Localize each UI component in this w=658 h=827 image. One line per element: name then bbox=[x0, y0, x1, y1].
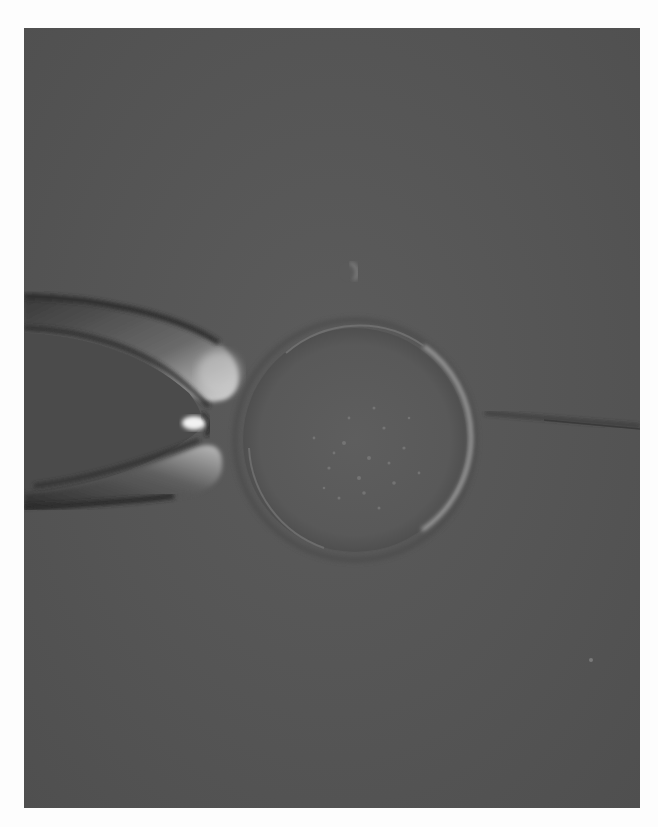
injection-needle bbox=[485, 413, 640, 429]
oocyte bbox=[243, 326, 471, 552]
microscopy-photo bbox=[24, 28, 640, 808]
debris-speck bbox=[589, 658, 593, 662]
holding-pipette bbox=[24, 296, 241, 508]
pipette-tip-highlight bbox=[182, 416, 206, 430]
microscopy-scene bbox=[24, 28, 640, 808]
